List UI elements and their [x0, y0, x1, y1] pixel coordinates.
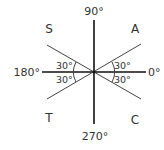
quadrant-label-t: T: [44, 111, 53, 125]
quadrant-label-c: C: [131, 113, 139, 127]
angle-label-lower-right: 30°: [114, 74, 131, 85]
angle-label-upper-left: 30°: [56, 60, 73, 71]
quadrant-label-s: S: [45, 22, 53, 36]
angle-label-upper-right: 30°: [114, 60, 131, 71]
angle-label-lower-left: 30°: [56, 74, 73, 85]
origin-dot: [93, 71, 96, 74]
label-0: 0°: [148, 66, 161, 79]
cast-diagram: 90° 0° 180° 270° S A T C 30° 30° 30° 30°: [0, 0, 164, 150]
label-180: 180°: [14, 66, 41, 79]
label-270: 270°: [82, 130, 109, 143]
quadrant-label-a: A: [131, 22, 140, 36]
label-90: 90°: [84, 5, 104, 18]
